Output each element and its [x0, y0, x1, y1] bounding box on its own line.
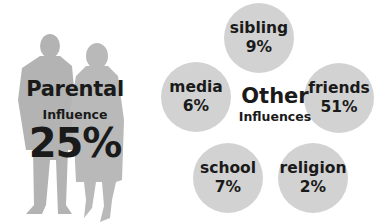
bubble-label: religion: [280, 159, 347, 178]
other-title: Other: [233, 84, 317, 108]
bubble-value: 51%: [320, 98, 357, 117]
bubble-value: 6%: [183, 97, 209, 116]
bubble-label: friends: [308, 79, 370, 98]
bubble-school: school 7%: [193, 143, 263, 213]
bubble-label: sibling: [230, 19, 288, 38]
bubble-value: 7%: [215, 178, 241, 197]
parental-title: Parental: [0, 77, 150, 101]
other-subtitle: Influences: [233, 109, 317, 124]
bubble-label: media: [169, 78, 223, 97]
bubble-sibling: sibling 9%: [224, 3, 294, 73]
bubble-value: 9%: [246, 38, 272, 57]
bubble-religion: religion 2%: [278, 143, 348, 213]
bubble-label: school: [200, 159, 256, 178]
bubble-media: media 6%: [161, 62, 231, 132]
bubble-value: 2%: [300, 178, 326, 197]
parental-value: 25%: [0, 120, 150, 166]
